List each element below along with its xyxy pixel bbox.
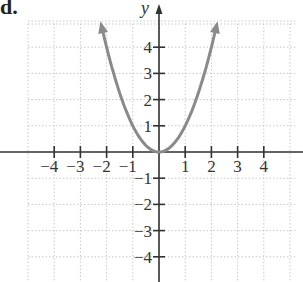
x-tick-label: 1: [181, 157, 190, 176]
y-tick-label: −3: [134, 222, 152, 241]
y-tick-label: −4: [134, 248, 153, 267]
x-tick-label: −4: [40, 157, 59, 176]
y-tick-label: 3: [144, 64, 153, 83]
y-tick-label: 4: [144, 38, 153, 57]
x-tick-label: 3: [233, 157, 242, 176]
x-tick-label: 2: [207, 157, 216, 176]
y-tick-label: −2: [134, 195, 152, 214]
y-axis-label: y: [139, 0, 149, 18]
x-tick-labels: −4−3−2−11234: [40, 157, 268, 176]
chart: −4−3−2−11234 4321−1−2−3−4 y: [0, 0, 303, 282]
y-tick-label: −1: [134, 169, 152, 188]
x-tick-label: −3: [66, 157, 84, 176]
y-tick-label: 1: [144, 117, 153, 136]
x-tick-label: −2: [93, 157, 111, 176]
y-tick-label: 2: [144, 91, 153, 110]
x-tick-label: 4: [260, 157, 269, 176]
